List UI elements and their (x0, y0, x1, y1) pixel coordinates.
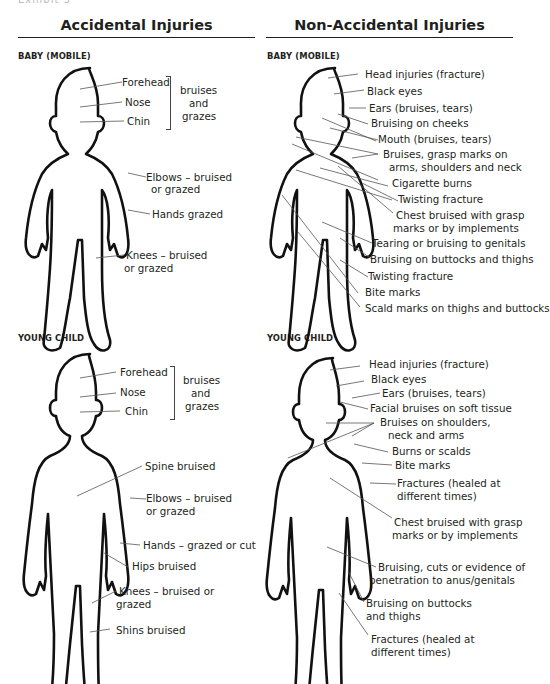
label-chest-bruised-cont: marks or by implements (392, 529, 518, 542)
label-spine: Spine bruised (145, 460, 215, 473)
label-nose: Nose (120, 386, 146, 399)
group-label-line-1: bruises (183, 374, 220, 387)
grouping-bracket (166, 76, 171, 130)
label-black-eyes: Black eyes (367, 85, 422, 98)
label-penetration: Bruising, cuts or evidence of (378, 561, 525, 574)
label-hands: Hands – grazed or cut (143, 539, 256, 552)
label-fractures-cont: different times) (397, 490, 477, 503)
group-label-line-2: and (191, 387, 210, 400)
label-black-eyes: Black eyes (371, 373, 426, 386)
group-label-line-3: grazes (185, 400, 219, 413)
label-forehead: Forehead (120, 366, 168, 379)
label-nose: Nose (125, 96, 151, 109)
label-fractures-2: Fractures (healed at (371, 633, 474, 646)
label-mouth: Mouth (bruises, tears) (378, 133, 492, 146)
label-buttocks-thighs: Bruising on buttocks (366, 597, 472, 610)
label-cheeks: Bruising on cheeks (371, 117, 469, 130)
group-label-line-3: grazes (182, 110, 216, 123)
label-knees-cont: or grazed (124, 262, 173, 275)
label-forehead: Forehead (122, 76, 170, 89)
label-penetration-cont: penetration to anus/genitals (369, 574, 515, 587)
label-facial-bruises: Facial bruises on soft tissue (370, 402, 512, 415)
label-elbows-cont: or grazed (151, 183, 200, 196)
label-elbows: Elbows – bruised (146, 492, 232, 505)
label-shoulder-bruises: Bruises on shoulders, (380, 416, 490, 429)
label-knees-cont: grazed (116, 598, 151, 611)
label-grasp-marks: Bruises, grasp marks on (383, 148, 508, 161)
label-buttocks-thighs: Bruising on buttocks and thighs (370, 253, 534, 266)
label-scald-marks: Scald marks on thighs and buttocks (365, 302, 550, 315)
label-chest-bruised: Chest bruised with grasp (396, 209, 525, 222)
group-label-line-1: bruises (180, 84, 217, 97)
label-shoulder-bruises-cont: neck and arms (388, 429, 464, 442)
label-twisting-fracture-2: Twisting fracture (368, 270, 453, 283)
label-grasp-marks-cont: arms, shoulders and neck (389, 161, 522, 174)
label-fractures: Fractures (healed at (397, 477, 500, 490)
label-chin: Chin (127, 115, 150, 128)
label-cigarette-burns: Cigarette burns (392, 177, 472, 190)
label-ears: Ears (bruises, tears) (382, 387, 486, 400)
group-label-line-2: and (189, 97, 208, 110)
grouping-bracket (170, 366, 175, 420)
label-chest-bruised: Chest bruised with grasp (394, 516, 523, 529)
label-head-injuries: Head injuries (fracture) (365, 68, 485, 81)
label-bite-marks: Bite marks (365, 286, 420, 299)
label-knees: Knees – bruised or (119, 585, 214, 598)
label-head-injuries: Head injuries (fracture) (369, 358, 489, 371)
label-ears: Ears (bruises, tears) (369, 102, 473, 115)
label-hips: Hips bruised (132, 560, 196, 573)
label-bite-marks: Bite marks (395, 459, 450, 472)
label-hands: Hands grazed (152, 208, 223, 221)
label-burns-scalds: Burns or scalds (392, 445, 471, 458)
label-fractures-2-cont: different times) (371, 646, 451, 659)
label-shins: Shins bruised (116, 624, 185, 637)
label-chin: Chin (125, 405, 148, 418)
label-chest-bruised-cont: marks or by implements (393, 222, 519, 235)
label-knees: Knees – bruised (126, 249, 207, 262)
label-elbows-cont: or grazed (146, 505, 195, 518)
label-elbows: Elbows – bruised (146, 171, 232, 184)
label-twisting-fracture: Twisting fracture (398, 193, 483, 206)
label-genitals: Tearing or bruising to genitals (372, 237, 526, 250)
label-buttocks-thighs-cont: and thighs (366, 610, 421, 623)
